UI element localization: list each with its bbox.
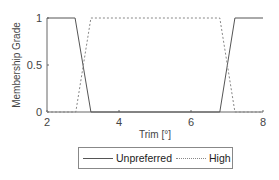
axes: 246800.51: [27, 12, 266, 128]
y-tick-label: 1: [36, 12, 42, 24]
legend-label: Unpreferred: [116, 152, 172, 164]
y-tick-label: 0: [36, 106, 42, 118]
series-lines: [47, 18, 263, 112]
legend-item-unpreferred: Unpreferred: [83, 152, 172, 164]
dotted-line-icon: [176, 158, 206, 159]
membership-chart: 246800.51 Trim [°] Membership Grade: [0, 0, 279, 145]
legend-item-high: High: [176, 152, 231, 164]
legend: Unpreferred High: [78, 147, 233, 169]
legend-label: High: [209, 152, 231, 164]
solid-line-icon: [83, 158, 113, 159]
series-high: [47, 18, 263, 112]
x-tick-label: 4: [116, 116, 122, 128]
y-tick-label: 0.5: [27, 59, 42, 71]
series-unpreferred: [47, 18, 263, 112]
x-tick-label: 6: [188, 116, 194, 128]
y-axis-label: Membership Grade: [11, 22, 22, 108]
x-tick-label: 2: [44, 116, 50, 128]
x-tick-label: 8: [260, 116, 266, 128]
x-axis-label: Trim [°]: [139, 129, 171, 140]
